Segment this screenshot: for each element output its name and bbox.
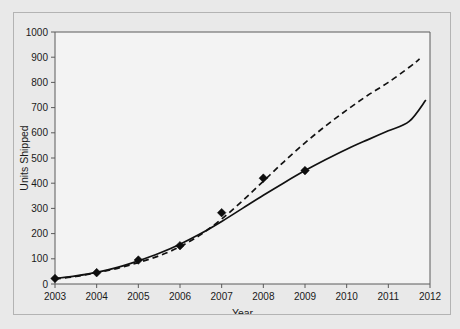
x-tick-label: 2010 bbox=[336, 291, 359, 302]
y-tick-label: 300 bbox=[31, 203, 48, 214]
x-tick-label: 2011 bbox=[378, 291, 400, 302]
y-tick-label: 1000 bbox=[26, 27, 49, 38]
y-tick-label: 100 bbox=[31, 253, 48, 264]
x-tick-label: 2005 bbox=[127, 291, 150, 302]
x-tick-label: 2004 bbox=[86, 291, 109, 302]
x-tick-label: 2012 bbox=[419, 291, 442, 302]
y-axis-title: Units Shipped bbox=[18, 125, 30, 191]
y-tick-label: 400 bbox=[31, 178, 48, 189]
x-tick-label: 2003 bbox=[44, 291, 67, 302]
y-tick-label: 800 bbox=[31, 77, 48, 88]
y-tick-label: 200 bbox=[31, 228, 48, 239]
y-tick-label: 700 bbox=[31, 102, 48, 113]
x-tick-label: 2008 bbox=[252, 291, 275, 302]
y-tick-label: 600 bbox=[31, 127, 48, 138]
chart-canvas: 0100200300400500600700800900100020032004… bbox=[14, 13, 450, 314]
x-axis-title: Year bbox=[232, 307, 254, 314]
x-tick-label: 2006 bbox=[169, 291, 192, 302]
plot-background bbox=[55, 32, 430, 284]
y-tick-label: 500 bbox=[31, 153, 48, 164]
y-tick-label: 900 bbox=[31, 52, 48, 63]
x-tick-label: 2009 bbox=[294, 291, 317, 302]
x-tick-label: 2007 bbox=[211, 291, 234, 302]
chart-figure: 0100200300400500600700800900100020032004… bbox=[13, 12, 451, 315]
y-tick-label: 0 bbox=[42, 279, 48, 290]
